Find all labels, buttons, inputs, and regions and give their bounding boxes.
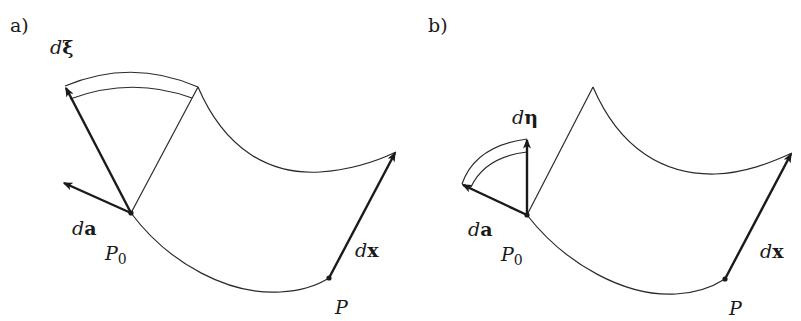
label-d-xi-symbol: ξ [62,36,73,58]
point-p-dot [722,276,727,281]
label-p0-sub: 0 [118,251,127,267]
label-d-a-prefix: d [72,217,84,239]
label-d-eta: dη [512,106,538,128]
outer-arc [65,72,198,87]
figure: a) dξ da P0 dx P [0,0,801,321]
generator-line [131,87,198,213]
label-d-xi: dξ [50,36,73,58]
point-p0-dot [128,210,133,215]
panel-a-label: a) [10,14,29,36]
label-d-a-symbol: a [84,217,96,239]
panel-a: a) dξ da P0 dx P [10,14,396,318]
upper-curve [593,87,792,174]
label-p0: P0 [104,242,127,267]
label-d-a: da [468,218,492,240]
label-p0-sub: 0 [514,252,523,268]
label-p: P [728,297,743,319]
label-d-x-prefix: d [760,240,772,262]
label-p: P [334,296,349,318]
label-p0-base: P [104,242,119,264]
label-d-a-symbol: a [480,218,492,240]
point-p0-dot [524,212,529,217]
label-p0-base: P [500,243,515,265]
inner-arc [70,87,192,99]
panel-b: b) dη da P0 dx P [428,14,792,319]
label-d-x: dx [355,239,379,261]
point-p-dot [326,275,331,280]
label-d-x-symbol: x [367,239,379,261]
upper-curve [198,87,396,172]
label-d-x-symbol: x [772,240,784,262]
label-d-a-prefix: d [468,218,480,240]
vector-d-xi-arrow [66,88,131,213]
lower-curve [527,215,725,294]
lower-curve [131,213,329,292]
label-d-x: dx [760,240,784,262]
label-d-eta-symbol: η [524,106,538,128]
vector-d-a-arrow [463,185,527,215]
panel-b-label: b) [428,14,448,36]
label-p0: P0 [500,243,523,268]
label-d-a: da [72,217,96,239]
label-d-x-prefix: d [355,239,367,261]
label-d-eta-prefix: d [512,106,524,128]
label-d-xi-prefix: d [50,36,62,58]
vector-d-a-arrow [64,183,131,213]
